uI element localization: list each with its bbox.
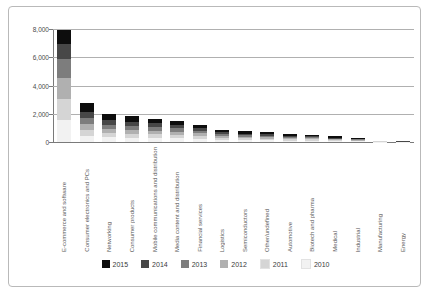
legend-label: 2011 bbox=[273, 261, 288, 268]
legend-swatch-icon bbox=[141, 260, 149, 268]
bar-segment-2010[interactable] bbox=[328, 141, 342, 142]
x-tick-label: Semiconductors bbox=[242, 209, 248, 252]
plot-area bbox=[53, 29, 414, 142]
chart-legend: 201520142013201220112010 bbox=[9, 259, 422, 269]
bar-stack[interactable] bbox=[238, 131, 252, 142]
bar-stack[interactable] bbox=[215, 130, 229, 142]
bar-segment-2015[interactable] bbox=[102, 114, 116, 121]
bar-stack[interactable] bbox=[102, 114, 116, 142]
bar-stack[interactable] bbox=[328, 136, 342, 142]
legend-item[interactable]: 2012 bbox=[220, 260, 247, 268]
legend-label: 2012 bbox=[231, 261, 247, 268]
bar-stack[interactable] bbox=[80, 103, 94, 142]
x-tick-label: Energy bbox=[400, 233, 406, 252]
bar-segment-2014[interactable] bbox=[57, 44, 71, 60]
bar-segment-2010[interactable] bbox=[102, 137, 116, 142]
x-tick-label: E-commerce and software bbox=[61, 182, 67, 252]
y-axis-labels: 02,0004,0006,0008,000 bbox=[9, 29, 49, 142]
y-tick-label: 6,000 bbox=[33, 54, 49, 61]
bar-stack[interactable] bbox=[396, 141, 410, 142]
x-tick-label: Mobile communications and distribution bbox=[152, 147, 158, 252]
bar-segment-2010[interactable] bbox=[215, 140, 229, 142]
y-tick-label: 4,000 bbox=[33, 82, 49, 89]
x-tick-label: Networking bbox=[106, 222, 112, 252]
bar-segment-2010[interactable] bbox=[260, 140, 274, 142]
y-tick-mark bbox=[49, 142, 53, 143]
bar-segment-2010[interactable] bbox=[305, 141, 319, 142]
x-tick-label: Medical bbox=[332, 231, 338, 252]
x-tick-label: Media content and distribution bbox=[174, 172, 180, 252]
bar-segment-2012[interactable] bbox=[57, 78, 71, 98]
bar-segment-2010[interactable] bbox=[57, 120, 71, 142]
gridline bbox=[53, 86, 414, 87]
y-tick-label: 2,000 bbox=[33, 110, 49, 117]
bar-segment-2013[interactable] bbox=[57, 59, 71, 78]
chart-frame: 02,0004,0006,0008,000 E-commerce and sof… bbox=[8, 6, 421, 287]
bar-segment-2010[interactable] bbox=[170, 138, 184, 142]
bar-segment-2010[interactable] bbox=[283, 141, 297, 142]
y-tick-mark bbox=[49, 57, 53, 58]
x-tick-label: Logistics bbox=[219, 229, 225, 252]
legend-item[interactable]: 2010 bbox=[301, 259, 330, 269]
x-tick-label: Industrial bbox=[355, 228, 361, 252]
x-tick-label: Manufacturing bbox=[377, 214, 383, 252]
bar-stack[interactable] bbox=[170, 121, 184, 142]
y-tick-mark bbox=[49, 86, 53, 87]
bar-stack[interactable] bbox=[305, 135, 319, 143]
legend-swatch-icon bbox=[260, 259, 270, 269]
legend-label: 2010 bbox=[314, 261, 330, 268]
legend-swatch-icon bbox=[301, 259, 311, 269]
bar-stack[interactable] bbox=[373, 141, 387, 142]
y-tick-mark bbox=[49, 29, 53, 30]
bar-stack[interactable] bbox=[193, 125, 207, 142]
x-axis-line bbox=[53, 142, 414, 143]
legend-swatch-icon bbox=[220, 260, 228, 268]
bar-segment-2015[interactable] bbox=[80, 103, 94, 113]
legend-label: 2014 bbox=[152, 261, 168, 268]
x-tick-label: Consumer products bbox=[129, 200, 135, 252]
x-tick-label: Other/undefined bbox=[264, 209, 270, 252]
bar-stack[interactable] bbox=[351, 138, 365, 142]
x-tick-label: Biotech and pharma bbox=[309, 198, 315, 252]
bar-stack[interactable] bbox=[125, 116, 139, 142]
legend-item[interactable]: 2015 bbox=[102, 260, 129, 268]
bar-stack[interactable] bbox=[260, 132, 274, 142]
gridline bbox=[53, 29, 414, 30]
x-tick-label: Consumer electronics and PCs bbox=[84, 169, 90, 252]
bar-segment-2010[interactable] bbox=[193, 139, 207, 142]
legend-label: 2015 bbox=[113, 261, 129, 268]
bar-segment-2010[interactable] bbox=[125, 138, 139, 142]
bar-segment-2010[interactable] bbox=[148, 138, 162, 142]
x-tick-label: Automotive bbox=[287, 222, 293, 252]
bar-segment-2015[interactable] bbox=[57, 30, 71, 43]
legend-swatch-icon bbox=[102, 260, 110, 268]
bar-segment-2011[interactable] bbox=[57, 99, 71, 120]
x-tick-label: Financial services bbox=[197, 204, 203, 252]
y-tick-label: 8,000 bbox=[33, 26, 49, 33]
gridline bbox=[53, 57, 414, 58]
legend-item[interactable]: 2014 bbox=[141, 260, 168, 268]
legend-item[interactable]: 2013 bbox=[181, 260, 208, 268]
legend-swatch-icon bbox=[181, 260, 189, 268]
legend-label: 2013 bbox=[192, 261, 208, 268]
bar-stack[interactable] bbox=[283, 134, 297, 142]
bar-stack[interactable] bbox=[148, 119, 162, 142]
bar-segment-2010[interactable] bbox=[80, 136, 94, 142]
legend-item[interactable]: 2011 bbox=[260, 259, 288, 269]
bar-segment-2010[interactable] bbox=[351, 141, 365, 142]
x-axis-labels: E-commerce and softwareConsumer electron… bbox=[53, 144, 414, 252]
bar-segment-2010[interactable] bbox=[238, 140, 252, 142]
y-tick-mark bbox=[49, 114, 53, 115]
bar-stack[interactable] bbox=[57, 30, 71, 142]
